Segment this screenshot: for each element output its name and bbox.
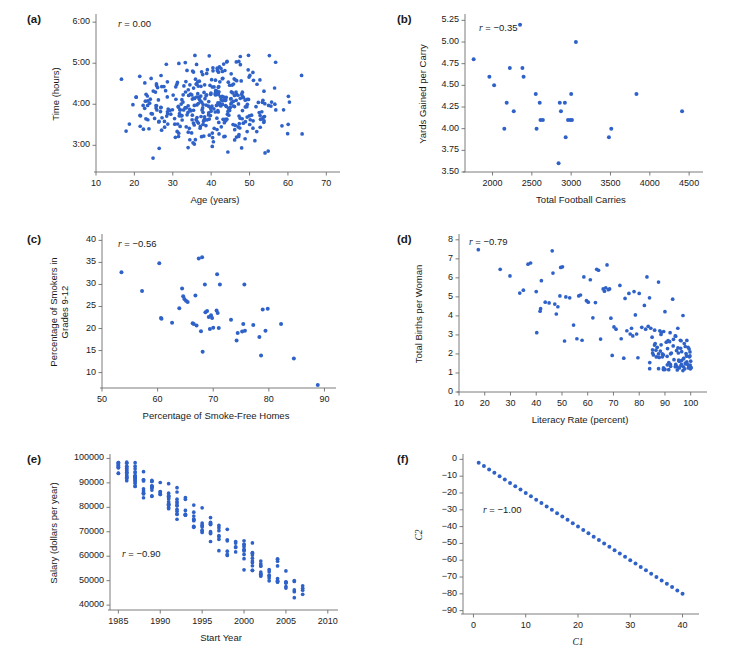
panel-b-yaxis-title: Yards Gained per Carry xyxy=(417,0,429,195)
panel-f-ytick-label: −70 xyxy=(397,571,457,581)
panel-f-ytick-label: −30 xyxy=(397,504,457,514)
panel-d-correlation-annotation: r = −0.79 xyxy=(469,236,508,247)
panel-c: (c) 101520253035405060708090Percentage o… xyxy=(0,220,367,440)
panel-b-xaxis-title: Total Football Carries xyxy=(425,194,735,205)
panel-b-ytick-label: 5.00 xyxy=(399,36,459,46)
panel-f-ytick-label: −10 xyxy=(397,470,457,480)
panel-f-yaxis-title: C2 xyxy=(413,433,425,637)
panel-d-yaxis-title: Total Births per Woman xyxy=(413,213,425,415)
panel-a: (a) 3:004:005:006:0010203040506070Age (y… xyxy=(0,0,367,220)
panel-f-ytick-label: −90 xyxy=(397,605,457,615)
panel-f-ytick-label: −40 xyxy=(397,521,457,531)
panel-e-yaxis-title: Salary (dollars per year) xyxy=(48,433,60,633)
panel-c-xtick-label: 50 xyxy=(77,394,127,404)
panel-f-ytick-label: 0 xyxy=(397,453,457,463)
panel-f: (f) −90−80−70−60−50−40−30−20−10001020304… xyxy=(367,440,735,660)
panel-b: (b) 3.503.754.004.254.504.755.005.252000… xyxy=(367,0,735,220)
panel-d-xtick-label: 100 xyxy=(666,398,716,408)
panel-f-xtick-label: 40 xyxy=(658,620,708,630)
panel-e-xtick-label: 2010 xyxy=(303,616,353,626)
panel-e-correlation-annotation: r = −0.90 xyxy=(122,548,161,559)
panel-b-ytick-label: 4.75 xyxy=(399,58,459,68)
panel-f-xaxis-title: C1 xyxy=(423,636,733,647)
panel-b-ytick-label: 4.50 xyxy=(399,79,459,89)
panel-c-xtick-label: 60 xyxy=(133,394,183,404)
panel-b-ytick-label: 3.75 xyxy=(399,144,459,154)
panel-f-xtick-label: 20 xyxy=(553,620,603,630)
panel-a-correlation-annotation: r = 0.00 xyxy=(118,18,151,29)
panel-d-xaxis-title: Literacy Rate (percent) xyxy=(419,414,735,425)
panel-f-ytick-label: −60 xyxy=(397,554,457,564)
panel-f-correlation-annotation: r = −1.00 xyxy=(483,504,522,515)
panel-b-ytick-label: 5.25 xyxy=(399,14,459,24)
panel-e: (e) 400005000060000700008000090000100000… xyxy=(0,440,367,660)
panel-b-xtick-label: 4500 xyxy=(664,178,714,188)
panel-b-ytick-label: 4.00 xyxy=(399,123,459,133)
panel-a-yaxis-title: Time (hours) xyxy=(50,0,62,195)
panel-f-ytick-label: −20 xyxy=(397,487,457,497)
panel-f-xtick-label: 10 xyxy=(501,620,551,630)
panel-f-ytick-label: −80 xyxy=(397,588,457,598)
panel-c-yaxis-title: Percentage of Smokers inGrades 9-12 xyxy=(48,213,72,411)
panel-e-xaxis-title: Start Year xyxy=(70,632,372,643)
figure-sheet: (a) 3:004:005:006:0010203040506070Age (y… xyxy=(0,0,735,660)
panel-c-xtick-label: 90 xyxy=(299,394,349,404)
panel-c-correlation-annotation: r = −0.56 xyxy=(118,238,157,249)
panel-c-xtick-label: 80 xyxy=(244,394,294,404)
panel-c-xaxis-title: Percentage of Smoke-Free Homes xyxy=(62,410,370,421)
panel-f-ytick-label: −50 xyxy=(397,537,457,547)
panel-b-ytick-label: 3.50 xyxy=(399,166,459,176)
panel-a-xtick-label: 70 xyxy=(301,178,351,188)
panel-c-xtick-label: 70 xyxy=(188,394,238,404)
panel-a-xaxis-title: Age (years) xyxy=(56,194,374,205)
panel-d: (d) 012345678102030405060708090100Litera… xyxy=(367,220,735,440)
panel-b-ytick-label: 4.25 xyxy=(399,101,459,111)
panel-f-xtick-label: 30 xyxy=(605,620,655,630)
panel-b-correlation-annotation: r = −0.35 xyxy=(479,22,518,33)
panel-f-xtick-label: 0 xyxy=(448,620,498,630)
